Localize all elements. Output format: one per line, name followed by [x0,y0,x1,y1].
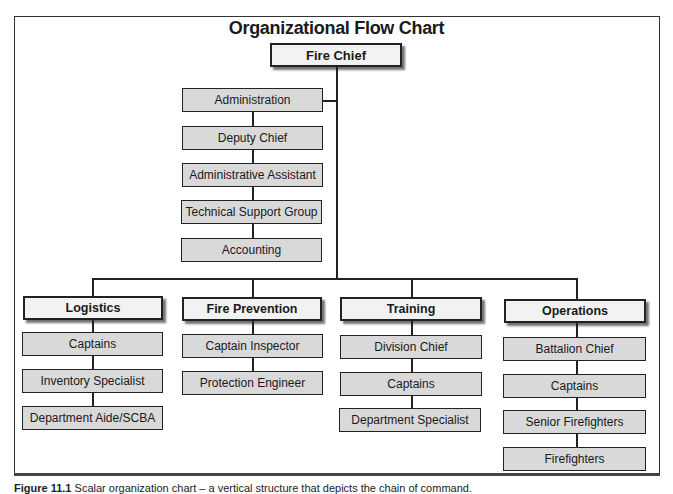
node-label: Division Chief [374,340,447,354]
node-label: Accounting [222,243,281,257]
node-label: Captain Inspector [205,339,299,353]
figure-caption-label: Figure 11.1 [14,482,71,494]
connector [576,361,578,374]
node-label: Captains [551,379,598,393]
node-label: Administration [214,93,290,107]
node-training-captains: Captains [340,372,482,396]
node-label: Fire Prevention [207,302,298,316]
connector [92,356,94,369]
node-captain-inspector: Captain Inspector [182,334,323,358]
figure-caption-text: Scalar organization chart – a vertical s… [75,482,472,494]
connector [411,321,413,335]
node-label: Logistics [66,301,121,315]
node-department-specialist: Department Specialist [339,408,481,432]
node-label: Fire Chief [306,48,366,63]
node-battalion-chief: Battalion Chief [503,337,646,361]
connector-admin-branch [322,100,337,102]
node-senior-firefighters: Senior Firefighters [503,410,646,434]
connector [411,359,413,372]
connector [576,278,578,299]
node-label: Training [387,302,436,316]
node-protection-engineer: Protection Engineer [182,371,323,395]
chart-title: Organizational Flow Chart [0,18,673,39]
node-training: Training [340,297,482,321]
node-firefighters: Firefighters [503,447,646,471]
node-operations: Operations [504,299,646,323]
node-label: Operations [542,304,608,318]
node-label: Senior Firefighters [525,415,623,429]
connector [411,278,413,297]
node-accounting: Accounting [181,238,322,262]
node-label: Battalion Chief [535,342,613,356]
node-label: Firefighters [544,452,604,466]
connector [252,224,254,238]
connector [252,278,254,297]
connector [92,278,94,296]
node-fire-chief: Fire Chief [270,43,402,67]
connector [252,321,254,334]
connector [252,112,254,126]
node-label: Inventory Specialist [40,374,144,388]
node-division-chief: Division Chief [340,335,482,359]
connector [411,396,413,408]
node-label: Deputy Chief [218,131,287,145]
connector [576,398,578,410]
node-fire-prevention: Fire Prevention [182,297,322,321]
connector-trunk [336,67,338,279]
node-logistics-captains: Captains [22,332,163,356]
node-label: Technical Support Group [185,205,317,219]
node-deputy-chief: Deputy Chief [182,126,323,150]
connector [92,320,94,332]
node-department-aide-scba: Department Aide/SCBA [22,406,163,430]
node-label: Department Specialist [351,413,468,427]
connector [576,434,578,447]
connector [576,323,578,337]
connector [252,187,254,200]
node-logistics: Logistics [23,296,163,320]
node-inventory-specialist: Inventory Specialist [22,369,163,393]
node-administration: Administration [182,88,323,112]
node-label: Protection Engineer [200,376,305,390]
node-label: Department Aide/SCBA [30,411,155,425]
figure-caption: Figure 11.1 Scalar organization chart – … [14,482,472,494]
node-label: Captains [69,337,116,351]
connector [252,358,254,371]
connector-division-bar [92,278,577,280]
connector [92,393,94,406]
node-label: Captains [387,377,434,391]
node-technical-support-group: Technical Support Group [181,200,322,224]
node-administrative-assistant: Administrative Assistant [182,163,323,187]
node-label: Administrative Assistant [189,168,316,182]
connector [252,150,254,163]
node-operations-captains: Captains [503,374,646,398]
